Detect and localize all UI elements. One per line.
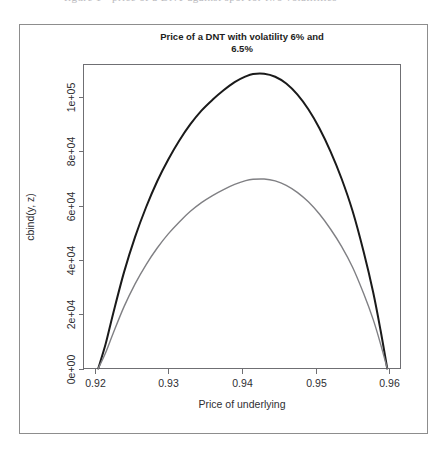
y-axis-title: cbind(y, z) xyxy=(24,193,36,241)
data-series-group xyxy=(98,73,387,368)
series-line-2 xyxy=(98,179,387,369)
y-axis-ticks: 0e+002e+044e+046e+048e+041e+05 xyxy=(65,83,83,385)
x-axis-title: Price of underlying xyxy=(199,398,286,410)
x-tick-label: 0.96 xyxy=(379,377,400,389)
x-tick-label: 0.95 xyxy=(306,377,327,389)
x-tick-label: 0.93 xyxy=(158,377,179,389)
plot-frame xyxy=(84,65,401,369)
chart-title-line1: Price of a DNT with volatility 6% and xyxy=(160,31,324,42)
y-tick-label: 1e+05 xyxy=(65,83,77,113)
y-tick-label: 8e+04 xyxy=(65,137,77,167)
y-tick-label: 4e+04 xyxy=(65,246,77,276)
y-tick-label: 0e+00 xyxy=(65,355,77,385)
x-tick-label: 0.92 xyxy=(85,377,106,389)
clipped-header-text-inner: figure 1 - price of a DNT against spot f… xyxy=(64,0,337,3)
x-axis-ticks: 0.920.930.940.950.96 xyxy=(85,369,400,389)
chart-title-line2: 6.5% xyxy=(231,43,253,54)
chart-plot: 0e+002e+044e+046e+048e+041e+05 0.920.930… xyxy=(20,25,427,433)
x-tick-label: 0.94 xyxy=(232,377,253,389)
y-tick-label: 6e+04 xyxy=(65,192,77,222)
y-tick-label: 2e+04 xyxy=(65,300,77,330)
clipped-header-text: figure 1 - price of a DNT against spot f… xyxy=(0,0,446,12)
figure-card: 0e+002e+044e+046e+048e+041e+05 0.920.930… xyxy=(19,24,428,434)
series-line-1 xyxy=(98,73,387,368)
